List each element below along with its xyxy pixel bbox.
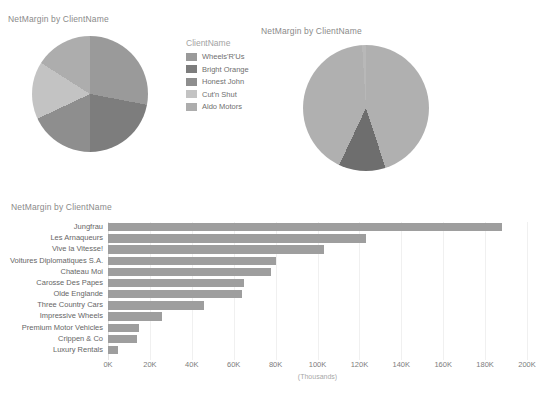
legend-title: ClientName (186, 38, 249, 48)
bar-row[interactable]: Crippen & Co (108, 334, 527, 345)
legend-item[interactable]: Cut'n Shut (186, 90, 249, 99)
bar-category-label: Chateau Moi (60, 267, 103, 277)
bar-row[interactable]: Carosse Des Papes (108, 278, 527, 289)
bar-category-label: Impressive Wheels (40, 311, 103, 321)
bar[interactable] (108, 245, 324, 253)
bar[interactable] (108, 324, 139, 332)
pie-chart-right[interactable] (303, 45, 429, 171)
bar-category-label: Voitures Diplomatiques S.A. (10, 256, 103, 266)
legend-item[interactable]: Aldo Motors (186, 102, 249, 111)
bar[interactable] (108, 223, 502, 231)
legend-swatch-icon (186, 90, 197, 98)
legend-swatch-icon (186, 78, 197, 86)
bar-category-label: Olde Englande (53, 289, 103, 299)
bar[interactable] (108, 268, 271, 276)
bar[interactable] (108, 257, 276, 265)
bar-row[interactable]: Les Arnaqueurs (108, 233, 527, 244)
bar-row[interactable]: Jungfrau (108, 222, 527, 233)
bar-chart-plot-area: JungfrauLes ArnaqueursVive la Vitesse!Vo… (108, 222, 527, 356)
legend-left: ClientName Wheels'R'UsBright OrangeHones… (186, 38, 249, 115)
bar-row[interactable]: Premium Motor Vehicles (108, 323, 527, 334)
x-axis-tick-label: 140K (393, 360, 411, 369)
page-title: NetMargin by ClientName (11, 202, 112, 212)
legend-item-label: Bright Orange (202, 65, 249, 74)
bar-row[interactable]: Voitures Diplomatiques S.A. (108, 256, 527, 267)
bar[interactable] (108, 312, 162, 320)
bar[interactable] (108, 335, 137, 343)
bar-category-label: Luxury Rentals (53, 345, 103, 355)
legend-item-label: Aldo Motors (202, 102, 242, 111)
legend-swatch-icon (186, 65, 197, 73)
page-title: NetMargin by ClientName (8, 14, 109, 24)
legend-swatch-icon (186, 103, 197, 111)
x-axis-tick-label: 100K (309, 360, 327, 369)
x-axis-tick-label: 40K (185, 360, 198, 369)
bar-row[interactable]: Chateau Moi (108, 267, 527, 278)
legend-item-label: Honest John (202, 77, 244, 86)
legend-item-label: Wheels'R'Us (202, 52, 244, 61)
bar-category-label: Jungfrau (74, 222, 103, 232)
bar-chart-panel: NetMargin by ClientName JungfrauLes Arna… (0, 190, 556, 396)
legend-item[interactable]: Wheels'R'Us (186, 52, 249, 61)
x-axis-tick-label: 60K (227, 360, 240, 369)
bar[interactable] (108, 234, 366, 242)
pie-chart-panel-left: NetMargin by ClientName ClientName Wheel… (0, 0, 250, 180)
x-axis-tick-label: 20K (143, 360, 156, 369)
page-title: NetMargin by ClientName (261, 26, 362, 36)
bar[interactable] (108, 290, 242, 298)
bar-row[interactable]: Vive la Vitesse! (108, 244, 527, 255)
bar-category-label: Carosse Des Papes (36, 278, 103, 288)
x-axis-tick-label: 80K (269, 360, 282, 369)
bar-category-label: Crippen & Co (58, 334, 103, 344)
bar-category-label: Premium Motor Vehicles (22, 323, 103, 333)
bar[interactable] (108, 301, 204, 309)
legend-item[interactable]: Bright Orange (186, 65, 249, 74)
gridline (527, 222, 528, 360)
bar[interactable] (108, 279, 244, 287)
x-axis-tick-label: 120K (351, 360, 369, 369)
pie-chart-left[interactable] (32, 36, 148, 152)
bar-row[interactable]: Olde Englande (108, 289, 527, 300)
bar[interactable] (108, 346, 118, 354)
bar-row[interactable]: Three Country Cars (108, 300, 527, 311)
x-axis-tick-label: 200K (518, 360, 536, 369)
bar-row[interactable]: Luxury Rentals (108, 345, 527, 356)
x-axis-tick-label: 0K (103, 360, 112, 369)
legend-item[interactable]: Honest John (186, 77, 249, 86)
bar-category-label: Three Country Cars (37, 300, 103, 310)
x-axis-tick-label: 160K (434, 360, 452, 369)
legend-swatch-icon (186, 53, 197, 61)
bar-category-label: Vive la Vitesse! (52, 244, 103, 254)
legend-items: Wheels'R'UsBright OrangeHonest JohnCut'n… (186, 52, 249, 111)
bar-category-label: Les Arnaqueurs (50, 233, 103, 243)
pie-chart-panel-right: NetMargin by ClientName ClientName Costa… (250, 0, 556, 180)
legend-item-label: Cut'n Shut (202, 90, 237, 99)
bar-row[interactable]: Impressive Wheels (108, 311, 527, 322)
x-axis-tick-label: 180K (476, 360, 494, 369)
x-axis-label: (Thousands) (298, 373, 337, 380)
